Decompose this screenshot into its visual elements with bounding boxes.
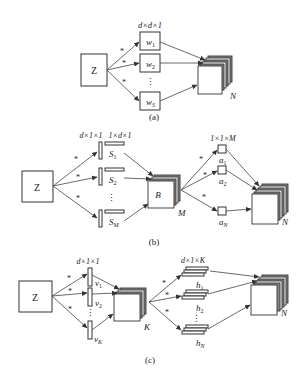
svg-text:a2: a2 — [219, 176, 227, 187]
middle-stack-k — [114, 288, 146, 321]
conv-op: * — [67, 274, 71, 283]
svg-text:hN: hN — [196, 338, 206, 349]
panel-b: Z d×1×1 1×d×1 S1 S2 ⋮ SM * * * B M — [22, 131, 289, 247]
pointwise-a2 — [218, 166, 226, 174]
svg-text:a1: a1 — [219, 155, 227, 166]
filter-s1-label: S1 — [109, 149, 117, 160]
output-stack — [198, 56, 232, 94]
conv-op: * — [68, 287, 72, 296]
second-shape-label: d×1×K — [181, 256, 206, 265]
filter-hn — [182, 325, 208, 334]
conv-op: * — [76, 194, 80, 203]
output-n-label: N — [280, 308, 288, 318]
filter-shape-v-label: d×1×1 — [80, 131, 103, 140]
filter-v1 — [88, 268, 92, 286]
conv-op: * — [68, 305, 72, 314]
ellipsis: ⋮ — [107, 193, 116, 203]
conv-op: * — [122, 59, 126, 68]
output-n-label: N — [229, 91, 237, 101]
conv-op: * — [199, 155, 203, 164]
panel-a: Z d×d×1 w1 w2 ⋮ wS * * * N (a) — [81, 20, 237, 122]
separable-filter-diagram: Z d×d×1 w1 w2 ⋮ wS * * * N (a) — [0, 0, 308, 383]
svg-text:vK: vK — [94, 334, 103, 345]
conv-op: * — [74, 155, 78, 164]
middle-b-label: B — [155, 190, 161, 200]
conv-op: * — [165, 308, 169, 317]
filter-h2 — [182, 290, 208, 299]
conv-op: * — [203, 171, 207, 180]
caption-b: (b) — [149, 237, 160, 247]
svg-text:v2: v2 — [95, 298, 102, 309]
svg-text:h2: h2 — [196, 303, 204, 314]
output-n-label: N — [281, 217, 289, 227]
caption-c: (c) — [145, 355, 155, 365]
pointwise-shape-label: 1×1×M — [210, 134, 237, 143]
middle-depth-k-label: K — [143, 322, 151, 332]
filter-shape-label: d×d×1 — [138, 20, 162, 30]
svg-text:h1: h1 — [196, 280, 204, 291]
ellipsis: ⋮ — [192, 314, 201, 324]
panel-c: Z d×1×1 v1 v2 ⋮ vK * * * K d×1×K — [19, 256, 288, 365]
middle-stack-b — [148, 175, 180, 208]
filter-sm-label: SM — [109, 217, 120, 228]
caption-a: (a) — [149, 112, 159, 122]
conv-op: * — [165, 291, 169, 300]
filter-vk — [88, 321, 92, 339]
pointwise-a1 — [218, 145, 226, 153]
input-z-label: Z — [32, 292, 38, 303]
ellipsis: ⋮ — [146, 77, 155, 87]
ellipsis: ⋮ — [86, 308, 95, 318]
input-z-label: Z — [91, 65, 97, 76]
conv-op: * — [120, 47, 124, 56]
filter-s2-label: S2 — [109, 175, 117, 186]
middle-depth-m-label: M — [177, 208, 186, 218]
filter-shape-label: d×1×1 — [77, 257, 100, 266]
filter-shape-h-label: 1×d×1 — [109, 131, 132, 140]
conv-op: * — [76, 173, 80, 182]
svg-text:aN: aN — [219, 217, 229, 228]
conv-op: * — [202, 193, 206, 202]
conv-op: * — [122, 78, 126, 87]
conv-op: * — [162, 279, 166, 288]
pointwise-an — [218, 207, 226, 215]
filter-v2 — [88, 288, 92, 306]
filter-h1 — [182, 267, 208, 276]
input-z-label: Z — [34, 182, 40, 193]
